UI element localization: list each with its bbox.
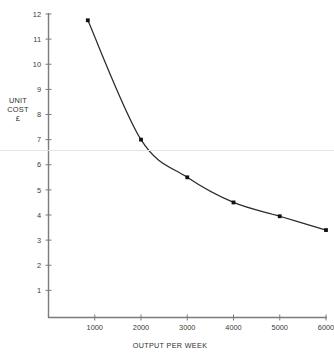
y-tick-label: 2 (37, 261, 41, 270)
y-axis-group: 123456789101112 (33, 10, 52, 318)
x-tick-label: 3000 (179, 323, 195, 332)
data-point-marker (185, 175, 189, 179)
x-tick-label: 4000 (225, 323, 241, 332)
chart-screenshot: UNIT COST £ 123456789101112 100020003000… (0, 0, 334, 357)
x-tick-label: 1000 (87, 323, 103, 332)
y-tick-label: 11 (33, 35, 41, 44)
y-tick-label: 3 (37, 236, 41, 245)
x-axis-tick-labels: 100020003000400050006000 (87, 323, 334, 332)
y-axis-tick-labels: 123456789101112 (33, 10, 41, 295)
x-axis-group: 100020003000400050006000 (48, 315, 334, 333)
y-tick-label: 10 (33, 60, 41, 69)
y-tick-label: 6 (37, 160, 41, 169)
y-tick-label: 7 (37, 135, 41, 144)
scan-fold-line (0, 150, 334, 151)
unit-cost-curve (88, 20, 326, 230)
unit-cost-vs-output-chart: UNIT COST £ 123456789101112 100020003000… (0, 0, 334, 357)
data-point-marker (324, 228, 328, 232)
y-tick-label: 9 (37, 85, 41, 94)
x-tick-label: 2000 (133, 323, 149, 332)
x-tick-label: 5000 (272, 323, 288, 332)
data-point-marker (86, 18, 90, 22)
x-axis-title: OUTPUT PER WEEK (133, 341, 208, 350)
data-point-markers (86, 18, 328, 232)
y-tick-label: 1 (37, 286, 41, 295)
y-tick-label: 12 (33, 10, 41, 19)
data-point-marker (278, 214, 282, 218)
data-point-marker (232, 201, 236, 205)
y-tick-label: 5 (37, 186, 41, 195)
y-tick-label: 4 (37, 211, 41, 220)
y-tick-label: 8 (37, 110, 41, 119)
plot-area: 123456789101112 100020003000400050006000… (0, 0, 334, 357)
x-tick-label: 6000 (318, 323, 334, 332)
data-point-marker (139, 138, 143, 142)
